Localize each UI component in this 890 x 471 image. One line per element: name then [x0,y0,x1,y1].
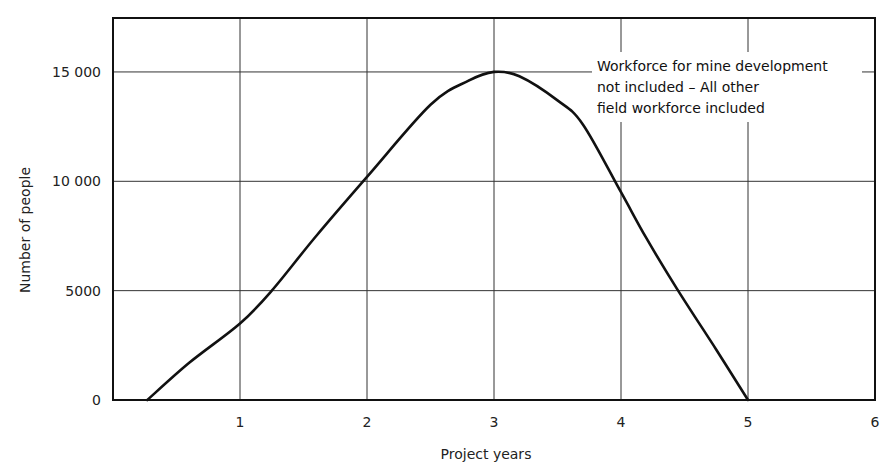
x-tick-label: 3 [490,414,499,430]
y-axis-label: Number of people [17,167,33,293]
x-tick-label: 5 [744,414,753,430]
workforce-chart: 0500010 00015 000 123456 Project years N… [0,0,890,471]
y-tick-label: 0 [92,392,101,408]
note-line-2: not included – All other [597,79,759,95]
y-tick-label: 10 000 [52,173,101,189]
x-tick-label: 6 [871,414,880,430]
x-axis-ticks: 123456 [236,414,880,430]
note-line-1: Workforce for mine development [597,58,828,74]
note-line-3: field workforce included [597,100,765,116]
x-axis-label: Project years [441,446,532,462]
y-axis-ticks: 0500010 00015 000 [52,64,101,408]
y-tick-label: 5000 [65,283,101,299]
y-tick-label: 15 000 [52,64,101,80]
x-tick-label: 1 [236,414,245,430]
x-tick-label: 4 [617,414,626,430]
annotation-note: Workforce for mine development not inclu… [592,52,862,122]
x-tick-label: 2 [363,414,372,430]
